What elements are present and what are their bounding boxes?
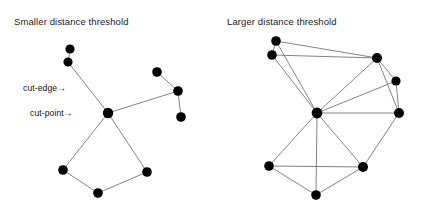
graph-edge	[317, 58, 377, 113]
graph-node	[312, 108, 323, 119]
graph-edge	[108, 91, 178, 113]
graph-node	[58, 165, 68, 175]
right-panel: Larger distance threshold	[227, 16, 404, 200]
annotation-cut-point: cut-point→	[30, 108, 73, 118]
graph-edge	[316, 167, 363, 195]
graph-node	[65, 44, 74, 53]
left-panel-nodes	[58, 44, 186, 197]
graph-node	[93, 188, 103, 198]
graph-node	[142, 167, 152, 177]
graph-node	[311, 190, 321, 200]
graph-node	[391, 76, 400, 85]
left-panel-edges	[63, 49, 181, 193]
graph-node	[267, 50, 277, 60]
right-panel-title: Larger distance threshold	[227, 16, 337, 27]
graph-edge	[272, 55, 317, 113]
right-panel-nodes	[264, 36, 404, 200]
right-panel-edges	[269, 41, 399, 195]
graph-node	[372, 53, 382, 63]
graph-figure-svg: Smaller distance thresholdcut-edge→cut-p…	[0, 0, 423, 205]
graph-edge	[269, 113, 317, 166]
graph-node	[152, 67, 162, 77]
left-panel: Smaller distance thresholdcut-edge→cut-p…	[14, 16, 186, 198]
graph-edge	[363, 113, 399, 167]
graph-edge	[276, 41, 317, 113]
graph-node	[63, 57, 72, 66]
figure-container: Smaller distance thresholdcut-edge→cut-p…	[0, 0, 423, 205]
graph-node	[271, 36, 281, 46]
graph-edge	[68, 62, 108, 113]
graph-edge	[317, 113, 363, 167]
graph-node	[103, 108, 113, 118]
graph-node	[358, 162, 368, 172]
graph-edge	[98, 172, 147, 193]
graph-edge	[317, 81, 396, 113]
annotation-cut-edge: cut-edge→	[23, 83, 66, 93]
graph-node	[173, 86, 183, 96]
graph-node	[264, 161, 274, 171]
graph-edge	[269, 166, 316, 195]
left-panel-title: Smaller distance threshold	[14, 16, 129, 27]
graph-edge	[63, 170, 98, 193]
graph-node	[176, 112, 186, 122]
graph-edge	[316, 113, 317, 195]
graph-node	[394, 108, 404, 118]
graph-edge	[269, 166, 363, 167]
graph-edge	[63, 113, 108, 170]
graph-edge	[108, 113, 147, 172]
